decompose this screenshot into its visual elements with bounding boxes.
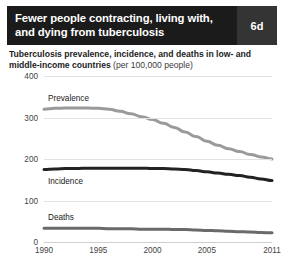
- page-title-line-2: and dying from tuberculosis: [15, 25, 237, 39]
- y-axis-tick-100: 100: [4, 196, 38, 205]
- gridline-400: [44, 76, 272, 77]
- x-axis-tick-2011: 2011: [263, 246, 281, 254]
- y-axis-tick-200: 200: [4, 155, 38, 164]
- y-axis-tick-300: 300: [4, 113, 38, 122]
- y-axis-tick-0: 0: [4, 238, 38, 247]
- series-line-prevalence: [44, 108, 272, 159]
- x-axis-tick-2000: 2000: [143, 246, 161, 254]
- x-axis-tick-1990: 1990: [35, 246, 53, 254]
- page-title-line-1: Fewer people contracting, living with,: [15, 11, 237, 25]
- page-title: Fewer people contracting, living with, a…: [7, 6, 237, 45]
- series-label-deaths: Deaths: [48, 213, 74, 222]
- gridline-300: [44, 118, 272, 119]
- line-chart: 010020030040019901995200020052011Prevale…: [0, 70, 284, 254]
- gridline-100: [44, 201, 272, 202]
- series-line-deaths: [44, 228, 272, 233]
- chart-subtitle: Tuberculosis prevalence, incidence, and …: [9, 49, 271, 70]
- chart-subtitle-unit: (per 100,000 people): [113, 60, 193, 70]
- figure-badge: 6d: [237, 6, 277, 45]
- gridline-200: [44, 159, 272, 160]
- x-axis-tick-2005: 2005: [198, 246, 216, 254]
- x-axis-tick-1995: 1995: [89, 246, 107, 254]
- series-label-incidence: Incidence: [48, 177, 83, 186]
- header-bar: Fewer people contracting, living with, a…: [7, 6, 277, 45]
- gridline-0: [44, 242, 272, 243]
- infographic-panel: Fewer people contracting, living with, a…: [0, 0, 284, 254]
- series-label-prevalence: Prevalence: [48, 94, 89, 103]
- y-axis-tick-400: 400: [4, 72, 38, 81]
